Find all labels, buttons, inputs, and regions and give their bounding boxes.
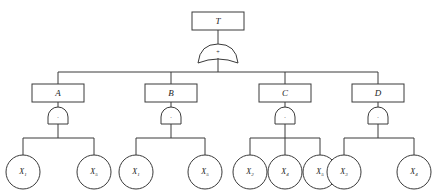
- branch-c: C · X2 X4: [233, 72, 337, 189]
- basic-event-a-1[interactable]: X1: [6, 155, 40, 189]
- and-gate-b-symbol: ·: [170, 115, 172, 121]
- basic-event-c-1[interactable]: X2: [233, 155, 267, 189]
- basic-event-d-1[interactable]: X3: [327, 155, 361, 189]
- basic-event-b-1[interactable]: X1: [119, 155, 153, 189]
- and-gate-a-symbol: ·: [57, 115, 59, 121]
- intermediate-event-label-c: C: [282, 88, 289, 98]
- basic-event-b-2[interactable]: X5: [188, 155, 222, 189]
- and-gate-d-symbol: ·: [377, 115, 379, 121]
- fault-tree-diagram: T + A ·: [0, 0, 437, 196]
- and-gate-c-symbol: ·: [284, 115, 286, 121]
- branch-a: A · X1 X5: [6, 72, 111, 189]
- and-gate-c[interactable]: ·: [275, 107, 295, 124]
- branch-b: B · X1 X5: [119, 72, 222, 189]
- and-gate-a[interactable]: ·: [48, 107, 68, 124]
- intermediate-event-label-a: A: [54, 88, 61, 98]
- intermediate-event-label-b: B: [168, 88, 174, 98]
- and-gate-b[interactable]: ·: [161, 107, 181, 124]
- fault-tree-canvas: T + A ·: [0, 0, 437, 196]
- basic-event-a-2[interactable]: X5: [77, 155, 111, 189]
- top-event-node[interactable]: T: [192, 12, 244, 30]
- basic-event-subscript: 1: [137, 172, 140, 177]
- basic-event-subscript: 1: [24, 172, 27, 177]
- basic-event-c-2[interactable]: X4: [268, 155, 302, 189]
- intermediate-event-label-d: D: [374, 88, 382, 98]
- and-gate-d[interactable]: ·: [368, 107, 388, 124]
- branch-d: D · X3 X4: [327, 72, 431, 189]
- basic-event-d-2[interactable]: X4: [397, 155, 431, 189]
